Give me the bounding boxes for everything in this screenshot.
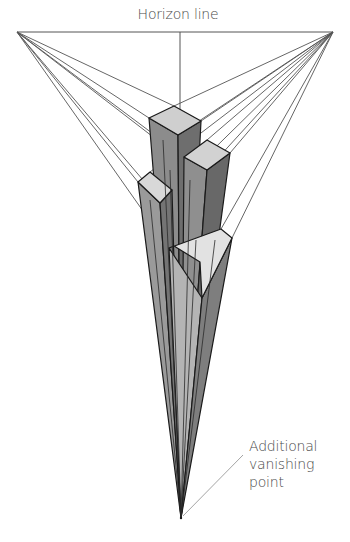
building-spike (138, 106, 232, 518)
horizon-line-label: Horizon line (0, 5, 350, 23)
vanishing-point-label: Additional vanishing point (249, 437, 349, 491)
vanishing-point-label-line-3: point (249, 473, 349, 491)
vanishing-point-pointer (183, 455, 243, 516)
bottom-vanishing-point (180, 517, 182, 519)
vanishing-point-label-line-2: vanishing (249, 455, 349, 473)
vanishing-point-label-line-1: Additional (249, 437, 349, 455)
